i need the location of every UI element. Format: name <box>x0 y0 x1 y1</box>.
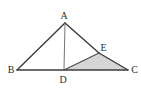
diagram-layer: ABCDE <box>8 10 139 85</box>
vertex-label-A: A <box>60 10 68 21</box>
vertex-label-C: C <box>131 64 138 75</box>
segment-AE <box>65 23 99 53</box>
vertex-label-B: B <box>8 64 15 75</box>
segment-AD <box>64 23 65 70</box>
geometry-figure: ABCDE <box>0 0 141 93</box>
triangle-diagram-svg: ABCDE <box>0 0 141 93</box>
shaded-region-DEC <box>64 53 128 70</box>
vertex-label-E: E <box>100 42 106 53</box>
vertex-label-D: D <box>59 74 66 85</box>
segment-AB <box>17 23 65 70</box>
